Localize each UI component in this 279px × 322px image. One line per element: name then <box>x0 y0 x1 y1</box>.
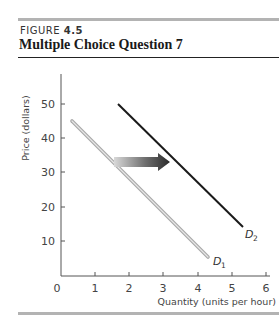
axes <box>61 74 270 276</box>
y-tick-40: 40 <box>41 132 55 145</box>
shift-arrow-icon <box>114 153 170 171</box>
label-d1: D 1 <box>213 255 226 270</box>
x-tick-6: 6 <box>263 282 270 295</box>
x-tick-4: 4 <box>195 282 202 295</box>
y-tick-20: 20 <box>41 201 55 214</box>
y-tick-10: 10 <box>41 235 55 248</box>
y-tick-30: 30 <box>41 166 55 179</box>
curve-d1 <box>72 121 208 257</box>
demand-chart: 50 40 30 20 10 0 1 2 3 4 5 6 Price (doll… <box>0 0 279 322</box>
x-tick-2: 2 <box>126 282 133 295</box>
label-d1-sub: 1 <box>221 261 226 270</box>
label-d2: D 2 <box>245 228 258 243</box>
x-axis-title: Quantity (units per hour) <box>158 296 276 307</box>
x-tick-3: 3 <box>160 282 167 295</box>
y-tick-50: 50 <box>41 98 55 111</box>
bottom-rule <box>18 312 279 315</box>
label-d2-sub: 2 <box>253 234 258 243</box>
x-ticks: 0 1 2 3 4 5 6 <box>54 272 270 295</box>
x-tick-0: 0 <box>54 282 61 295</box>
x-tick-1: 1 <box>92 282 99 295</box>
y-axis-title: Price (dollars) <box>20 95 31 160</box>
x-tick-5: 5 <box>229 282 236 295</box>
